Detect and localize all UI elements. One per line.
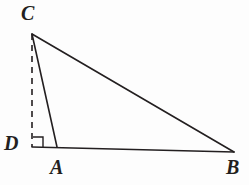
vertex-label-b: B <box>226 157 239 177</box>
segment-DB <box>32 147 234 152</box>
geometry-figure: C D A B <box>0 0 249 185</box>
segment-CB <box>32 34 234 152</box>
vertex-label-a: A <box>50 157 63 177</box>
geometry-canvas <box>0 0 249 185</box>
vertex-label-d: D <box>4 133 18 153</box>
vertex-label-c: C <box>21 3 34 23</box>
segment-CA <box>32 34 57 147</box>
right-angle-marker-icon <box>33 137 43 147</box>
